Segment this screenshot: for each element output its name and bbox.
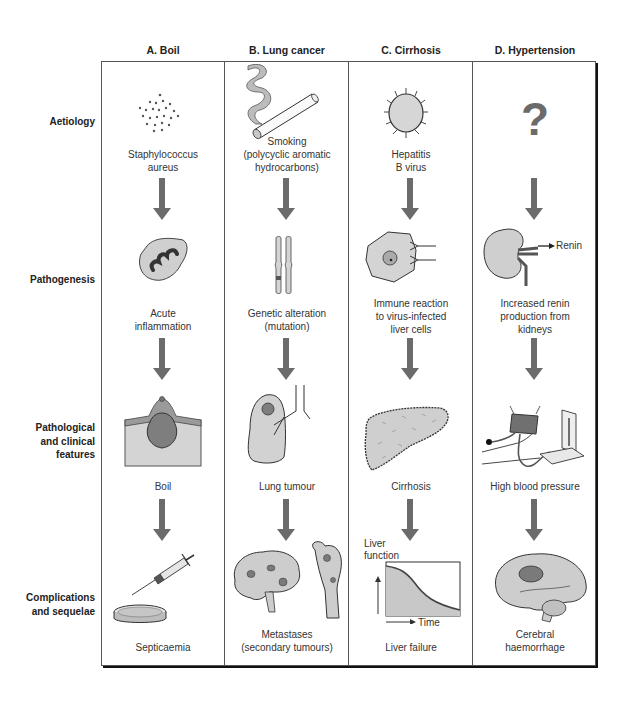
syringe-petri-dish-icon [110, 548, 202, 630]
liver-cell-antibody-icon [364, 226, 440, 288]
skin-boil-icon [124, 396, 202, 468]
caption-staphylococcus: Staphylococcusaureus [101, 148, 225, 174]
caption-cerebral-haemorrhage: Cerebralhaemorrhage [473, 628, 597, 654]
caption-smoking: Smoking(polycyclic aromatichydrocarbons) [225, 135, 349, 174]
inflamed-cell-icon [135, 234, 190, 284]
caption-boil: Boil [101, 480, 225, 493]
down-arrow-icon [276, 178, 296, 222]
row-label-pathological-features: Pathologicaland clinicalfeatures [36, 421, 95, 462]
column-header-boil: A. Boil [101, 44, 225, 56]
caption-immune-reaction: Immune reactionto virus-infectedliver ce… [349, 297, 473, 336]
question-mark-icon: ? [510, 94, 560, 144]
down-arrow-icon [400, 338, 420, 382]
caption-acute-inflammation: Acuteinflammation [101, 307, 225, 333]
renin-label: Renin [556, 239, 596, 252]
graph-xlabel: Time [418, 616, 458, 629]
down-arrow-icon [524, 499, 544, 543]
cigarette-icon [234, 64, 324, 146]
graph-ylabel: Liverfunction [364, 538, 424, 562]
caption-hepatitis-b: HepatitisB virus [349, 148, 473, 174]
down-arrow-icon [524, 178, 544, 222]
brain-haemorrhage-icon [490, 548, 590, 626]
renin-arrow-icon [538, 242, 556, 250]
kidney-icon [482, 226, 542, 288]
down-arrow-icon [400, 178, 420, 222]
caption-increased-renin: Increased reninproduction fromkidneys [473, 297, 597, 336]
down-arrow-icon [152, 178, 172, 222]
sphygmomanometer-icon [480, 406, 590, 472]
row-label-pathogenesis: Pathogenesis [30, 273, 95, 287]
column-header-lung-cancer: B. Lung cancer [225, 44, 349, 56]
caption-liver-failure: Liver failure [349, 641, 473, 654]
lung-tumour-icon [244, 385, 316, 467]
caption-genetic-alteration: Genetic alteration(mutation) [225, 307, 349, 333]
caption-lung-tumour: Lung tumour [225, 480, 349, 493]
liver-function-graph-icon [370, 560, 462, 624]
column-header-cirrhosis: C. Cirrhosis [349, 44, 473, 56]
down-arrow-icon [400, 499, 420, 543]
bacteria-cluster-icon [130, 92, 190, 137]
down-arrow-icon [276, 338, 296, 382]
caption-metastases: Metastases(secondary tumours) [225, 628, 349, 654]
down-arrow-icon [276, 499, 296, 543]
column-header-hypertension: D. Hypertension [473, 44, 597, 56]
cirrhotic-liver-icon [362, 404, 450, 472]
down-arrow-icon [524, 338, 544, 382]
down-arrow-icon [152, 499, 172, 543]
caption-septicaemia: Septicaemia [101, 641, 225, 654]
row-label-aetiology: Aetiology [49, 115, 95, 129]
row-label-complications: Complicationsand sequelae [26, 591, 95, 618]
caption-high-blood-pressure: High blood pressure [473, 480, 597, 493]
virus-icon [381, 86, 431, 142]
caption-cirrhosis: Cirrhosis [349, 480, 473, 493]
chromosome-icon [272, 236, 296, 296]
brain-bone-metastases-icon [229, 540, 347, 622]
down-arrow-icon [152, 338, 172, 382]
